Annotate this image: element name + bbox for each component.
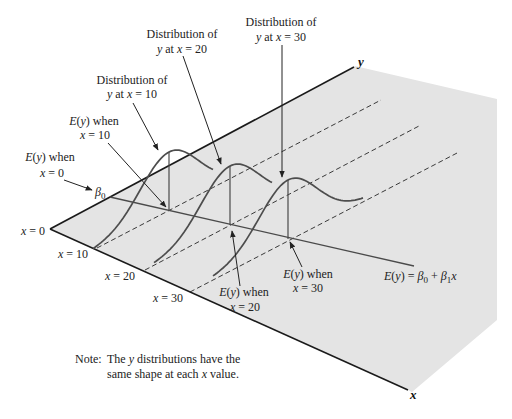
x-tick-20: x = 20 [104, 269, 135, 283]
x-tick-10: x = 10 [57, 247, 88, 261]
dist-x20-label-line2: y at x = 20 [156, 42, 207, 56]
ey-x10-label-line2: x = 10 [79, 128, 110, 142]
ey-x0-label-line1: E(y) when [24, 150, 75, 164]
arrow-dist-x10 [133, 103, 158, 150]
dist-x10-label-line2: y at x = 10 [106, 87, 157, 101]
ey-x0-label-line2: x = 0 [39, 166, 64, 180]
arrow-ey-x0 [64, 180, 92, 190]
regression-distribution-diagram: y x x = 0 x = 10 x = 20 x = 30 Distribut… [0, 0, 512, 419]
note-line2: same shape at each x value. [107, 367, 239, 381]
dist-x10-label-line1: Distribution of [97, 73, 168, 87]
regression-equation: E(y) = β0 + β1x [383, 269, 457, 285]
ey-x20-label-line2: x = 20 [229, 300, 260, 314]
x-tick-0: x = 0 [20, 224, 45, 238]
y-axis-label: y [356, 54, 364, 69]
x-tick-30: x = 30 [152, 291, 183, 305]
ey-x30-label-line2: x = 30 [292, 281, 323, 295]
x-axis-label: x [409, 387, 417, 402]
beta0-label: β0 [94, 185, 106, 201]
note-line1: The y distributions have the [107, 352, 240, 366]
dist-x20-label-line1: Distribution of [147, 27, 218, 41]
ey-x10-label-line1: E(y) when [68, 114, 119, 128]
note-prefix: Note: [75, 352, 102, 366]
dist-x30-label-line1: Distribution of [246, 15, 317, 29]
ey-x20-label-line1: E(y) when [218, 285, 269, 299]
ey-x30-label-line1: E(y) when [282, 267, 333, 281]
dist-x30-label-line2: y at x = 30 [255, 30, 306, 44]
